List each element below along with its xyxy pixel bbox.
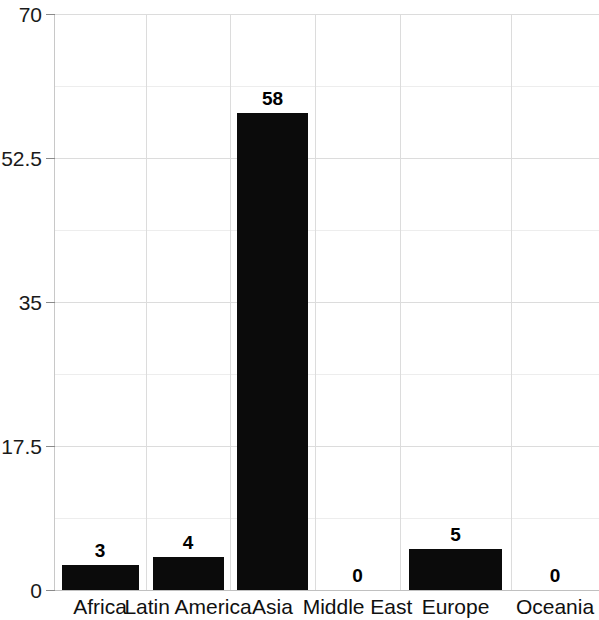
gridline-vertical: [511, 14, 512, 590]
y-axis-tick-label: 70: [0, 4, 42, 25]
gridline-vertical: [146, 14, 147, 590]
gridline-vertical: [400, 14, 401, 590]
bar-value-label: 4: [128, 533, 248, 552]
gridline-horizontal: [54, 302, 599, 303]
bar: [153, 557, 224, 590]
y-axis-tick-label: 17.5: [0, 436, 42, 457]
bar-value-label: 0: [495, 566, 599, 585]
y-axis-tick: [46, 446, 55, 447]
gridline-horizontal-minor: [54, 518, 599, 519]
bar: [409, 549, 502, 590]
y-axis-tick-label: 52.5: [0, 148, 42, 169]
bar-value-label: 5: [396, 525, 516, 544]
gridline-horizontal: [54, 446, 599, 447]
gridline-horizontal-minor: [54, 86, 599, 87]
x-axis-line: [54, 590, 599, 591]
gridline-horizontal: [54, 158, 599, 159]
x-axis-category-label: Oceania: [465, 596, 599, 617]
bar-value-label: 0: [298, 566, 418, 585]
bar: [62, 565, 139, 590]
gridline-horizontal: [54, 14, 599, 15]
gridline-horizontal-minor: [54, 374, 599, 375]
y-axis-tick: [46, 302, 55, 303]
y-axis-tick-label: 35: [0, 292, 42, 313]
bar-value-label: 58: [213, 89, 333, 108]
bar-chart: 017.53552.570 3458050 AfricaLatin Americ…: [0, 0, 599, 620]
y-axis-tick: [46, 590, 55, 591]
y-axis-tick: [46, 14, 55, 15]
y-axis-tick: [46, 158, 55, 159]
gridline-horizontal-minor: [54, 230, 599, 231]
bar: [237, 113, 308, 590]
